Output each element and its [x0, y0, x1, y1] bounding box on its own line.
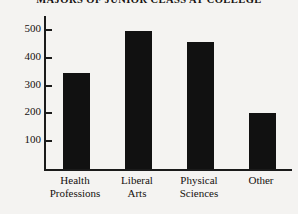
x-axis-label-line: Arts [106, 187, 168, 200]
y-axis-tick: 400 [46, 57, 52, 59]
y-axis-tick: 200 [46, 112, 52, 114]
x-axis-line [44, 169, 292, 171]
x-axis-label: Other [230, 174, 292, 187]
chart-title: MAJORS OF JUNIOR CLASS AT COLLEGE [0, 0, 298, 5]
x-axis-label-line: Sciences [168, 187, 230, 200]
y-axis-tick: 100 [46, 140, 52, 142]
y-axis-tick-label: 200 [25, 105, 42, 118]
y-axis-tick-label: 400 [25, 50, 42, 63]
x-axis-label-line: Health [44, 174, 106, 187]
y-axis-tick-label: 100 [25, 133, 42, 146]
y-axis-tick: 300 [46, 85, 52, 87]
y-axis-tick-label: 300 [25, 78, 42, 91]
bar-chart: MAJORS OF JUNIOR CLASS AT COLLEGE 100200… [0, 0, 298, 214]
bar [63, 73, 90, 169]
x-axis-label-line: Other [230, 174, 292, 187]
x-axis-label: PhysicalSciences [168, 174, 230, 199]
bar [249, 113, 276, 169]
y-axis-tick: 500 [46, 29, 52, 31]
y-axis-tick-label: 500 [25, 22, 42, 35]
bar [187, 42, 214, 169]
x-axis-label: HealthProfessions [44, 174, 106, 199]
y-axis-line [44, 16, 46, 171]
x-axis-label-line: Physical [168, 174, 230, 187]
bar [125, 31, 152, 169]
plot-area: 100200300400500 [44, 16, 292, 171]
x-axis-labels: HealthProfessionsLiberalArtsPhysicalScie… [44, 174, 292, 210]
x-axis-label-line: Professions [44, 187, 106, 200]
x-axis-label-line: Liberal [106, 174, 168, 187]
x-axis-label: LiberalArts [106, 174, 168, 199]
